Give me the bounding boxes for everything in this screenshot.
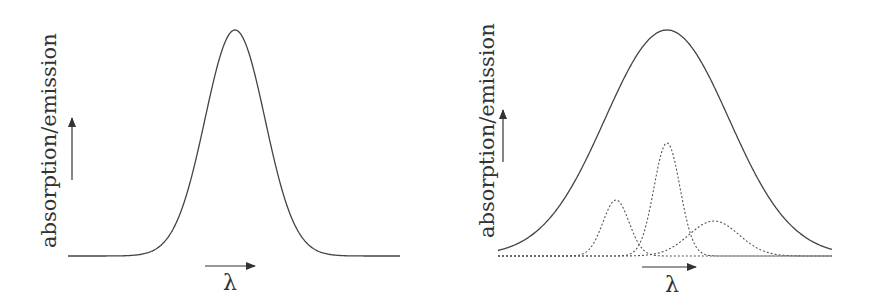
y-axis-label: absorption/emission [475, 23, 499, 238]
component-curve-1 [498, 200, 832, 256]
right-panel: absorption/emission λ [475, 23, 832, 297]
x-axis-label: λ [223, 270, 237, 295]
single-band-curve [68, 30, 400, 256]
envelope-curve [498, 30, 832, 251]
component-curve-3 [498, 221, 832, 256]
left-panel: absorption/emission λ [37, 30, 400, 295]
y-axis-label: absorption/emission [37, 33, 61, 248]
spectra-figure: absorption/emission λ absorption/emissio… [0, 0, 872, 305]
component-curve-2 [498, 143, 832, 256]
x-axis-label: λ [665, 272, 679, 297]
